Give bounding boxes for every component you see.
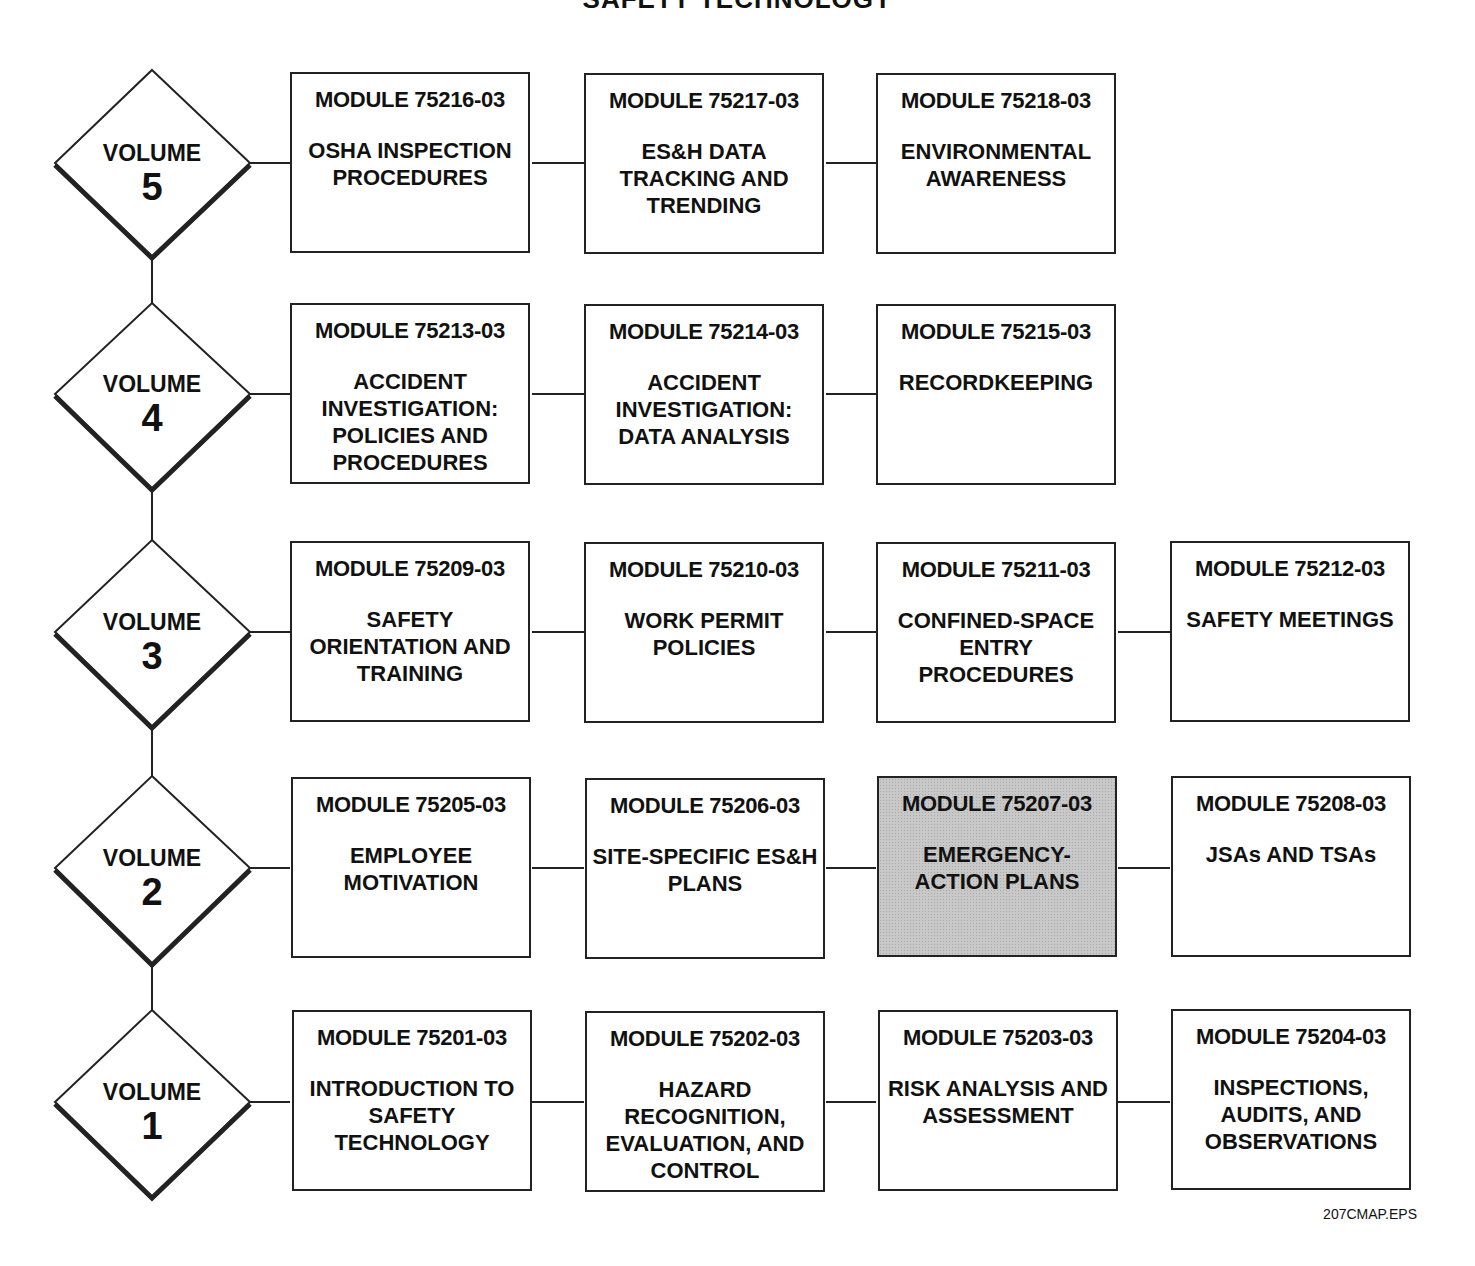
- module-box-75210: MODULE 75210-03 WORK PERMIT POLICIES: [584, 542, 824, 723]
- volume-number: 4: [52, 397, 252, 440]
- module-code: MODULE 75209-03: [292, 556, 528, 582]
- module-name: ACCIDENT INVESTIGATION: DATA ANALYSIS: [586, 369, 822, 450]
- module-code: MODULE 75208-03: [1173, 791, 1409, 817]
- volume-label: VOLUME: [52, 1079, 252, 1106]
- module-code: MODULE 75218-03: [878, 88, 1114, 114]
- module-name: ENVIRONMENTAL AWARENESS: [878, 138, 1114, 192]
- volume-2-diamond: VOLUME 2: [52, 775, 252, 965]
- module-name: INSPECTIONS, AUDITS, AND OBSERVATIONS: [1173, 1074, 1409, 1155]
- volume-number: 3: [52, 635, 252, 678]
- module-code: MODULE 75211-03: [878, 557, 1114, 583]
- module-code: MODULE 75203-03: [880, 1025, 1116, 1051]
- module-name: RISK ANALYSIS AND ASSESSMENT: [880, 1075, 1116, 1129]
- file-label: 207CMAP.EPS: [1323, 1206, 1417, 1222]
- module-box-75206: MODULE 75206-03 SITE-SPECIFIC ES&H PLANS: [585, 778, 825, 959]
- module-name: INTRODUCTION TO SAFETY TECHNOLOGY: [294, 1075, 530, 1156]
- module-box-75209: MODULE 75209-03 SAFETY ORIENTATION AND T…: [290, 541, 530, 722]
- module-name: EMPLOYEE MOTIVATION: [293, 842, 529, 896]
- module-box-75213: MODULE 75213-03 ACCIDENT INVESTIGATION: …: [290, 303, 530, 484]
- module-box-75205: MODULE 75205-03 EMPLOYEE MOTIVATION: [291, 777, 531, 958]
- module-box-75208: MODULE 75208-03 JSAs AND TSAs: [1171, 776, 1411, 957]
- module-code: MODULE 75217-03: [586, 88, 822, 114]
- module-code: MODULE 75213-03: [292, 318, 528, 344]
- module-box-75218: MODULE 75218-03 ENVIRONMENTAL AWARENESS: [876, 73, 1116, 254]
- volume-3-diamond: VOLUME 3: [52, 539, 252, 729]
- module-name: SAFETY ORIENTATION AND TRAINING: [292, 606, 528, 687]
- module-code: MODULE 75216-03: [292, 87, 528, 113]
- module-name: ACCIDENT INVESTIGATION: POLICIES AND PRO…: [292, 368, 528, 476]
- module-box-75203: MODULE 75203-03 RISK ANALYSIS AND ASSESS…: [878, 1010, 1118, 1191]
- volume-label: VOLUME: [52, 845, 252, 872]
- module-code: MODULE 75201-03: [294, 1025, 530, 1051]
- module-box-75204: MODULE 75204-03 INSPECTIONS, AUDITS, AND…: [1171, 1009, 1411, 1190]
- module-box-75216: MODULE 75216-03 OSHA INSPECTION PROCEDUR…: [290, 72, 530, 253]
- volume-5-diamond: VOLUME 5: [52, 70, 252, 260]
- module-code: MODULE 75204-03: [1173, 1024, 1409, 1050]
- module-name: HAZARD RECOGNITION, EVALUATION, AND CONT…: [587, 1076, 823, 1184]
- module-box-75211: MODULE 75211-03 CONFINED-SPACE ENTRY PRO…: [876, 542, 1116, 723]
- volume-number: 1: [52, 1105, 252, 1148]
- module-code: MODULE 75206-03: [587, 793, 823, 819]
- module-code: MODULE 75215-03: [878, 319, 1114, 345]
- module-name: SAFETY MEETINGS: [1172, 606, 1408, 633]
- module-box-75202: MODULE 75202-03 HAZARD RECOGNITION, EVAL…: [585, 1011, 825, 1192]
- module-box-75215: MODULE 75215-03 RECORDKEEPING: [876, 304, 1116, 485]
- module-box-75212: MODULE 75212-03 SAFETY MEETINGS: [1170, 541, 1410, 722]
- volume-1-diamond: VOLUME 1: [52, 1009, 252, 1199]
- volume-label: VOLUME: [52, 371, 252, 398]
- volume-label: VOLUME: [52, 609, 252, 636]
- module-name: RECORDKEEPING: [878, 369, 1114, 396]
- module-name: CONFINED-SPACE ENTRY PROCEDURES: [878, 607, 1114, 688]
- module-code: MODULE 75202-03: [587, 1026, 823, 1052]
- module-box-75217: MODULE 75217-03 ES&H DATA TRACKING AND T…: [584, 73, 824, 254]
- module-code: MODULE 75205-03: [293, 792, 529, 818]
- volume-4-diamond: VOLUME 4: [52, 301, 252, 491]
- volume-label: VOLUME: [52, 140, 252, 167]
- module-name: ES&H DATA TRACKING AND TRENDING: [586, 138, 822, 219]
- module-box-75214: MODULE 75214-03 ACCIDENT INVESTIGATION: …: [584, 304, 824, 485]
- module-name: OSHA INSPECTION PROCEDURES: [292, 137, 528, 191]
- module-name: WORK PERMIT POLICIES: [586, 607, 822, 661]
- module-name: JSAs AND TSAs: [1173, 841, 1409, 868]
- module-box-75207-highlighted: MODULE 75207-03 EMERGENCY-ACTION PLANS: [877, 776, 1117, 957]
- module-code: MODULE 75207-03: [879, 791, 1115, 817]
- module-box-75201: MODULE 75201-03 INTRODUCTION TO SAFETY T…: [292, 1010, 532, 1191]
- volume-number: 5: [52, 166, 252, 209]
- module-code: MODULE 75210-03: [586, 557, 822, 583]
- module-code: MODULE 75212-03: [1172, 556, 1408, 582]
- volume-number: 2: [52, 871, 252, 914]
- module-name: SITE-SPECIFIC ES&H PLANS: [587, 843, 823, 897]
- module-name: EMERGENCY-ACTION PLANS: [879, 841, 1115, 895]
- module-code: MODULE 75214-03: [586, 319, 822, 345]
